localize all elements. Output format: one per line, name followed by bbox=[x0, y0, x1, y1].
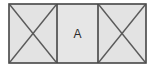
panel-row-diagram: A bbox=[0, 0, 155, 75]
diagram-canvas: A bbox=[0, 0, 155, 75]
panel-middle-label: A bbox=[73, 27, 81, 41]
